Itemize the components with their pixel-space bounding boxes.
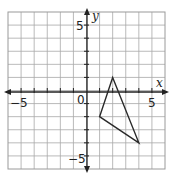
y-axis-label: y <box>91 9 99 23</box>
triangle <box>100 77 139 142</box>
y-tick-label-neg5: −5 <box>68 152 86 166</box>
x-tick-label-pos5: 5 <box>148 96 156 110</box>
x-tick-label-neg5: −5 <box>10 96 28 110</box>
origin-label: 0 <box>77 93 85 107</box>
x-axis-label: x <box>156 76 163 90</box>
coordinate-plane: x y 0 −5 5 5 −5 <box>0 0 173 181</box>
y-tick-label-pos5: 5 <box>76 19 84 33</box>
